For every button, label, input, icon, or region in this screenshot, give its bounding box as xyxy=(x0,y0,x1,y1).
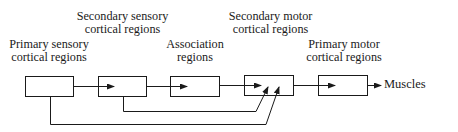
arrow-secondary-sensory-to-secondary-motor xyxy=(124,87,269,112)
label-muscles: Muscles xyxy=(384,77,426,92)
box-primary-sensory xyxy=(26,77,74,97)
flow-diagram xyxy=(0,0,458,132)
